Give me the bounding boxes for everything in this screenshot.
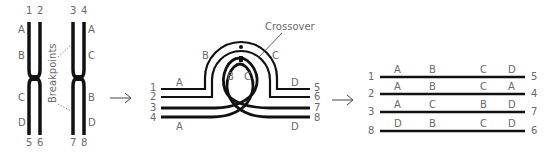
- centromere: [74, 75, 83, 81]
- gene-label: B: [202, 50, 209, 61]
- strand-number: 7: [70, 137, 76, 148]
- strand-number: 6: [37, 137, 43, 148]
- strand-number: 6: [531, 125, 537, 136]
- gene-label: C: [18, 92, 25, 103]
- gene-label: D: [508, 64, 516, 75]
- gene-label: B: [429, 81, 436, 92]
- breakpoints-label: Breakpoints: [47, 43, 58, 103]
- strand-number: 5: [531, 71, 537, 82]
- result-chromatid-row: 2 A B C A 4: [368, 81, 537, 99]
- gene-label: C: [244, 71, 251, 82]
- strand-number: 4: [150, 112, 156, 123]
- strand-number: 8: [314, 112, 320, 123]
- centromere: [239, 45, 243, 49]
- result-chromatid-row: 3 A C B D 7: [368, 99, 537, 117]
- strand-number: 4: [81, 5, 87, 16]
- strand-number: 2: [37, 5, 43, 16]
- gene-label: B: [18, 50, 25, 61]
- inversion-crossover-diagram: 1 2 3 4 A B C D A C B D Breakpoints 5 6 …: [0, 0, 548, 155]
- gene-label: B: [429, 64, 436, 75]
- gene-label: C: [272, 50, 279, 61]
- strand-number: 3: [368, 106, 374, 117]
- gene-label: C: [429, 99, 436, 110]
- panel-left: 1 2 3 4 A B C D A C B D Breakpoints 5 6 …: [18, 5, 96, 148]
- arrow-right-icon: [332, 95, 353, 105]
- gene-label: A: [394, 99, 401, 110]
- gene-label: A: [176, 77, 183, 88]
- gene-label: D: [394, 118, 402, 129]
- result-chromatid-row: 1 A B C D 5: [368, 64, 537, 82]
- result-chromatid-row: 8 D B C D 6: [368, 118, 537, 136]
- gene-label: A: [88, 24, 95, 35]
- crossover-label: Crossover: [265, 21, 316, 32]
- gene-label: A: [18, 24, 25, 35]
- gene-label: B: [480, 99, 487, 110]
- breakpoint-pointer: [58, 45, 71, 57]
- gene-label: C: [480, 118, 487, 129]
- strand-number: 5: [26, 137, 32, 148]
- panel-middle: 1 2 3 4 A A B C B C D D Crossover 5 6 7 …: [150, 21, 320, 132]
- gene-label: B: [429, 118, 436, 129]
- strand-number: 1: [368, 71, 374, 82]
- gene-label: A: [176, 121, 183, 132]
- gene-label: D: [291, 77, 299, 88]
- gene-label: D: [18, 117, 26, 128]
- gene-label: D: [508, 99, 516, 110]
- strand-number: 2: [150, 91, 156, 102]
- strand-number: 6: [314, 91, 320, 102]
- breakpoint-pointer: [58, 104, 71, 111]
- strand-number: 1: [26, 5, 32, 16]
- strand-number: 4: [531, 88, 537, 99]
- strand-number: 2: [368, 88, 374, 99]
- strand-number: 8: [81, 137, 87, 148]
- gene-label: A: [394, 64, 401, 75]
- strand-number: 7: [531, 106, 537, 117]
- gene-label: D: [508, 118, 516, 129]
- gene-label: A: [508, 81, 515, 92]
- gene-label: B: [88, 92, 95, 103]
- arrow-right-icon: [110, 93, 131, 103]
- gene-label: B: [227, 71, 234, 82]
- gene-label: A: [394, 81, 401, 92]
- strand-number: 3: [70, 5, 76, 16]
- gene-label: D: [291, 121, 299, 132]
- gene-label: C: [88, 50, 95, 61]
- centromere: [239, 56, 243, 62]
- gene-label: C: [480, 81, 487, 92]
- strand-number: 8: [368, 125, 374, 136]
- panel-right: 1 A B C D 5 2 A B C A 4 3 A C B D 7: [368, 64, 537, 136]
- gene-label: D: [88, 117, 96, 128]
- centromere: [30, 75, 39, 81]
- gene-label: C: [480, 64, 487, 75]
